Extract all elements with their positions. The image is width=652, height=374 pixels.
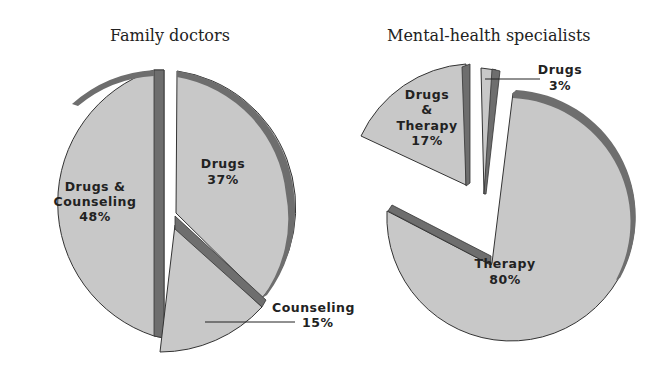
- label-drugs: Drugs: [201, 156, 245, 171]
- label-drugs-counseling-2: Counseling: [54, 194, 137, 209]
- label-therapy-pct: 80%: [489, 272, 520, 287]
- label-therapy: Therapy: [474, 256, 535, 271]
- label-drugs-3-pct: 3%: [549, 78, 571, 93]
- label-drugs-counseling-pct: 48%: [79, 209, 110, 224]
- right-pie: Drugs & Therapy 17% Drugs 3% Therapy 80%: [361, 62, 636, 341]
- label-counseling-pct: 15%: [302, 315, 333, 330]
- left-pie: Drugs & Counseling 48% Drugs 37% Counsel…: [54, 70, 355, 352]
- label-counseling: Counseling: [272, 300, 355, 315]
- pie-charts: Drugs & Counseling 48% Drugs 37% Counsel…: [0, 0, 652, 374]
- label-drugs-3: Drugs: [538, 62, 582, 77]
- label-drugs-therapy-2: Therapy: [396, 118, 457, 133]
- label-drugs-therapy-pct: 17%: [411, 133, 442, 148]
- label-drugs-pct: 37%: [207, 172, 238, 187]
- label-drugs-counseling: Drugs &: [65, 179, 126, 194]
- label-drugs-therapy-amp: &: [421, 102, 432, 117]
- slice-drugs-3: [481, 68, 500, 194]
- label-drugs-therapy: Drugs: [405, 87, 449, 102]
